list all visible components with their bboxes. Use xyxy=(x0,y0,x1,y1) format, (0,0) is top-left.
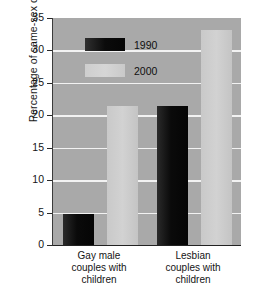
bar-chart-figure: Percentage of same-sex couples 051015202… xyxy=(0,0,254,298)
legend-label-2000: 2000 xyxy=(134,65,157,77)
x-label-line: Lesbian xyxy=(146,250,240,262)
legend-label-1990: 1990 xyxy=(134,39,157,51)
y-tick-15: 15 xyxy=(32,142,44,152)
x-label-line: couples with xyxy=(146,262,240,274)
legend-item-2000: 2000 xyxy=(85,62,157,79)
legend-swatch-1990 xyxy=(85,38,125,51)
y-axis-tick-labels: 05101520253035 xyxy=(0,0,52,298)
y-tick-35: 35 xyxy=(32,12,44,22)
x-label-line: children xyxy=(146,274,240,286)
plot-area: 1990 2000 xyxy=(52,18,241,246)
legend: 1990 2000 xyxy=(85,36,157,88)
x-label-group-1: Gay malecouples withchildren xyxy=(52,250,146,287)
y-tick-5: 5 xyxy=(38,207,44,217)
bar-1990-2 xyxy=(157,106,188,245)
y-tick-25: 25 xyxy=(32,77,44,87)
bar-1990-1 xyxy=(63,214,94,245)
x-label-line: couples with xyxy=(52,262,146,274)
bar-2000-1 xyxy=(107,106,138,245)
bar-2000-2 xyxy=(201,30,232,245)
legend-swatch-2000 xyxy=(85,64,125,77)
y-tick-10: 10 xyxy=(32,174,44,184)
y-tick-20: 20 xyxy=(32,109,44,119)
x-axis-tick-labels: Gay malecouples withchildrenLesbiancoupl… xyxy=(52,250,240,298)
x-label-line: Gay male xyxy=(52,250,146,262)
x-label-line: children xyxy=(52,274,146,286)
y-tick-30: 30 xyxy=(32,44,44,54)
y-tick-0: 0 xyxy=(38,239,44,249)
x-label-group-2: Lesbiancouples withchildren xyxy=(146,250,240,287)
legend-item-1990: 1990 xyxy=(85,36,157,53)
